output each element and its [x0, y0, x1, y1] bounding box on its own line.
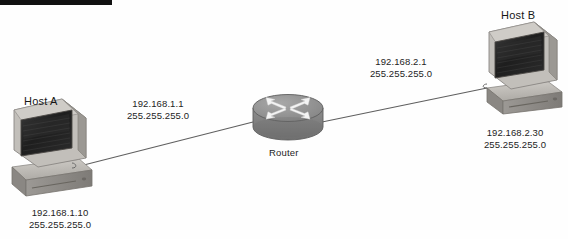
host-b-computer [483, 22, 562, 114]
link-router-to-host-b [322, 88, 487, 122]
host-a-ip: 192.168.1.10 [8, 207, 112, 219]
network-illustration [0, 0, 568, 239]
router-right-ip: 192.168.2.1 [349, 56, 453, 68]
router-right-subnet-mask: 255.255.255.0 [349, 68, 453, 80]
router-left-interface-block: 192.168.1.1 255.255.255.0 [106, 98, 210, 121]
host-a-label: Host A [24, 96, 58, 108]
host-a-address-block: 192.168.1.10 255.255.255.0 [8, 207, 112, 230]
host-b-subnet-mask: 255.255.255.0 [463, 139, 567, 151]
host-a-subnet-mask: 255.255.255.0 [8, 219, 112, 231]
router-label: Router [269, 147, 299, 159]
router-left-ip: 192.168.1.1 [106, 98, 210, 110]
host-b-label: Host B [501, 10, 535, 22]
host-b-address-block: 192.168.2.30 255.255.255.0 [463, 127, 567, 150]
router-right-interface-block: 192.168.2.1 255.255.255.0 [349, 56, 453, 79]
router-left-subnet-mask: 255.255.255.0 [106, 110, 210, 122]
host-b-ip: 192.168.2.30 [463, 127, 567, 139]
host-a-computer [12, 99, 92, 196]
link-host-a-to-router [72, 122, 253, 168]
diagram-canvas: FIGURE 4-1 Two hosts connected using a r… [0, 0, 568, 239]
router-device [253, 95, 323, 141]
